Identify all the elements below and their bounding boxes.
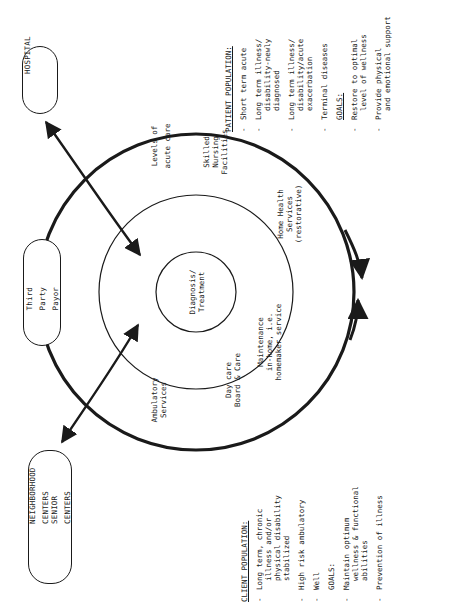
hospital-label: HOSPITAL (21, 36, 34, 74)
ring-label-maintenance: Maintenance in-home, i.e. homemaker serv… (256, 296, 283, 388)
patient-item: -Long term illness/ disability/acute exa… (287, 16, 314, 132)
client-item: -Long term, chronic illness and/or physi… (255, 486, 291, 602)
client-goal: -Prevention of illness (375, 486, 384, 602)
client-item: -High risk ambulatory (297, 486, 306, 602)
client-goals-header: GOALS: (327, 486, 336, 590)
ring-label-skilled-nursing: Skilled Nursing Facilities (202, 128, 229, 176)
client-population-header: CLIENT POPULATION: (240, 486, 249, 602)
third-party-payor-label: Third Party Payor (23, 275, 62, 311)
client-population-panel: CLIENT POPULATION: -Long term, chronic i… (240, 486, 390, 602)
patient-population-header: PATIENT POPULATION: (224, 16, 233, 132)
patient-item: -Terminal diseases (320, 16, 329, 132)
patient-goals-header: GOALS: (335, 16, 344, 120)
client-goal: -Maintain optimum wellness & functional … (342, 486, 369, 602)
hospital-node: HOSPITAL (22, 46, 58, 114)
patient-population-panel: PATIENT POPULATION: -Short term acute -L… (224, 16, 398, 132)
patient-item: -Short term acute (239, 16, 248, 132)
center-label: Diagnosis/ Treatment (188, 264, 206, 320)
neighborhood-centers-node: NEIGHBORHOOD CENTERS SENIOR CENTERS (28, 450, 72, 584)
ring-label-levels-acute-care: Levels of acute care (150, 120, 172, 172)
neighborhood-arrow (62, 325, 138, 442)
patient-goal: -Restore to optimal level of wellness (350, 16, 368, 132)
ring-label-day-care: Day care Board & Care (224, 350, 242, 410)
patient-item: -Long term illness/ disability-newly dia… (254, 16, 281, 132)
patient-goal: -Provide physical and emotional support (374, 16, 392, 132)
third-party-payor-node: Third Party Payor (23, 239, 61, 346)
hospital-arrow (46, 122, 140, 255)
ring-label-home-health: Home Health Services (restorative) (276, 178, 303, 250)
client-item: -Well (312, 486, 321, 602)
ring-label-ambulatory: Ambulatory Services (150, 370, 168, 430)
senior-centers-label: SENIOR CENTERS (48, 510, 74, 524)
